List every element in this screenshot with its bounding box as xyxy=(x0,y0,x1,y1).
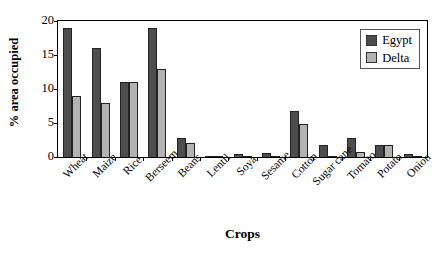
y-axis-title-text: % area occupied xyxy=(8,38,23,127)
x-tick-label-cell: Sugar cane xyxy=(314,159,343,221)
x-tick-label-cell: Rice xyxy=(114,159,143,221)
bar-chart-figure: % area occupied 05101520 Egypt Delta Whe… xyxy=(0,0,434,257)
y-axis-tick-labels: 05101520 xyxy=(26,0,54,257)
legend-label-delta: Delta xyxy=(382,52,409,65)
legend-item-delta: Delta xyxy=(366,52,412,65)
bar-group xyxy=(314,21,342,157)
bar-group xyxy=(285,21,313,157)
bar-egypt-wheat xyxy=(63,28,72,157)
x-tick-label-cell: Berseem xyxy=(143,159,172,221)
bar-egypt-maize xyxy=(92,48,101,157)
y-axis-title: % area occupied xyxy=(2,0,28,165)
bar-egypt-cotton xyxy=(290,111,299,157)
legend: Egypt Delta xyxy=(360,29,420,69)
bar-delta-rice xyxy=(129,82,138,157)
bar-egypt-sugar-cane xyxy=(319,145,328,157)
x-tick-label-cell: Potato xyxy=(371,159,400,221)
bar-egypt-rice xyxy=(120,82,129,157)
bar-egypt-soya xyxy=(234,154,243,157)
bar-group xyxy=(143,21,171,157)
y-axis-tick xyxy=(54,21,58,22)
bar-egypt-onion xyxy=(404,154,413,157)
bar-egypt-sesame xyxy=(262,153,271,157)
x-tick-label-cell: Cotton xyxy=(285,159,314,221)
x-tick-label-cell: Wheat xyxy=(57,159,86,221)
bar-group xyxy=(257,21,285,157)
bar-delta-wheat xyxy=(72,96,81,157)
legend-swatch-egypt xyxy=(366,35,377,46)
x-axis-tick-labels: WheatMaizeRiceBerseemBeansLentilSoyaSesa… xyxy=(57,159,428,221)
y-tick-label: 20 xyxy=(28,13,54,28)
y-tick-label: 15 xyxy=(28,47,54,62)
y-axis-tick xyxy=(54,89,58,90)
bar-group xyxy=(86,21,114,157)
x-tick-label-cell: Soya xyxy=(228,159,257,221)
bar-egypt-lentil xyxy=(205,156,214,157)
x-tick-label-cell: Tomato xyxy=(342,159,371,221)
bar-egypt-berseem xyxy=(148,28,157,157)
bar-group xyxy=(115,21,143,157)
legend-label-egypt: Egypt xyxy=(382,34,412,47)
y-tick-label: 5 xyxy=(28,115,54,130)
x-tick-label-cell: Onion xyxy=(399,159,428,221)
y-axis-tick xyxy=(54,157,58,158)
bar-delta-berseem xyxy=(157,69,166,157)
y-axis-tick xyxy=(54,55,58,56)
bar-delta-maize xyxy=(101,103,110,157)
bar-group xyxy=(58,21,86,157)
x-tick-label-cell: Maize xyxy=(86,159,115,221)
y-axis-tick xyxy=(54,123,58,124)
y-tick-label: 10 xyxy=(28,81,54,96)
x-tick-label-cell: Beans xyxy=(171,159,200,221)
x-axis-title: Crops xyxy=(57,226,428,242)
legend-item-egypt: Egypt xyxy=(366,34,412,47)
plot-area: Egypt Delta xyxy=(57,20,428,158)
legend-swatch-delta xyxy=(366,52,377,63)
x-tick-label-cell: Lentil xyxy=(200,159,229,221)
y-tick-label: 0 xyxy=(28,149,54,164)
bar-group xyxy=(200,21,228,157)
bar-group xyxy=(172,21,200,157)
x-tick-label-cell: Sesame xyxy=(257,159,286,221)
bar-group xyxy=(228,21,256,157)
